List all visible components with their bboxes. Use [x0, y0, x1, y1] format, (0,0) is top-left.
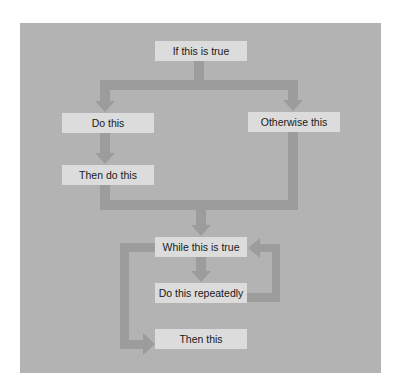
node-do-repeatedly: Do this repeatedly [155, 283, 247, 303]
connector-do-to-then-do [100, 133, 110, 155]
node-then-this: Then this [155, 329, 247, 349]
arrow-head-to-repeat [191, 271, 211, 282]
connector-otherwise-down [288, 132, 298, 210]
node-do-this: Do this [62, 113, 154, 133]
arrow-head-to-then [143, 333, 155, 355]
connector-while-to-repeat [196, 257, 206, 273]
connector-merge-bar [100, 200, 298, 210]
arrow-head-loop-to-while [248, 238, 260, 258]
connector-loop-right [272, 244, 280, 302]
connector-split-bar [100, 80, 298, 90]
connector-to-otherwise [288, 80, 298, 102]
connector-to-do [100, 80, 110, 103]
arrow-head-to-then-do [95, 153, 115, 164]
arrow-head-to-otherwise [283, 100, 303, 111]
arrow-head-to-do [95, 101, 115, 112]
arrow-head-to-while [191, 225, 211, 236]
connector-to-while [196, 210, 206, 227]
node-while-condition: While this is true [155, 237, 247, 257]
connector-exit-bottom [120, 340, 145, 349]
node-if-condition: If this is true [155, 41, 247, 61]
node-then-do-this: Then do this [62, 165, 154, 185]
connector-exit-left [120, 243, 129, 349]
node-otherwise: Otherwise this [248, 112, 340, 132]
connector-loop-top [258, 244, 280, 252]
